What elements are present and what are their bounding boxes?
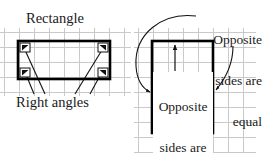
right-angles-label: Right angles [16, 95, 89, 110]
leader-lines-right-angles [25, 50, 102, 94]
opposite-inner-line-2: sides are [153, 141, 213, 155]
diagram-canvas: Rectangle Right angles Opposite sides ar… [0, 0, 265, 157]
right-angle-marker-top-right [98, 43, 108, 52]
opposite-sides-equal-inner-label: Opposite sides are equal [153, 72, 213, 157]
opposite-inner-line-1: Opposite [153, 100, 213, 114]
rectangle-title: Rectangle [26, 11, 84, 26]
right-angle-marker-bottom-left [20, 68, 30, 77]
right-angle-marker-top-left [20, 43, 30, 52]
opposite-outer-line-1: Opposite [196, 33, 262, 47]
right-angle-marker-bottom-right [98, 68, 108, 77]
